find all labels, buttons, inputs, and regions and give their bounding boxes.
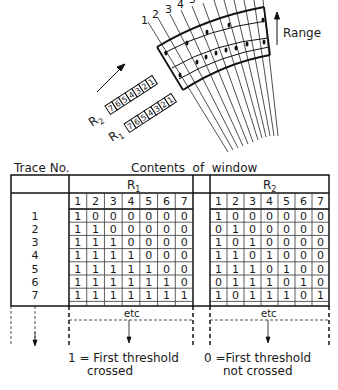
r1-cell: 0 [110, 210, 117, 223]
r2-cell: 0 [249, 210, 256, 223]
trace-number: 6 [32, 276, 39, 289]
legend-zero: 0 =First threshold not crossed [204, 352, 311, 378]
r1-cell: 1 [110, 263, 117, 276]
r1-cell: 1 [163, 289, 170, 302]
trace-label-4: 4 [177, 0, 184, 11]
r1-cell: 1 [74, 289, 81, 302]
r2-cell: 0 [317, 276, 324, 289]
r2-cell: 1 [249, 276, 256, 289]
etc-label-r1: etc [124, 308, 140, 319]
register-r2-label: R2 [86, 110, 106, 131]
legend-one-line2: crossed [68, 365, 179, 378]
r2-cell: 0 [317, 236, 324, 249]
contents-header: Contents of window [131, 161, 258, 175]
r2-cell: 0 [283, 276, 290, 289]
r2-cell: 0 [300, 210, 307, 223]
r1-cell: 0 [163, 249, 170, 262]
window-contents-table: Trace No. Contents of window R1 R2 11223… [0, 160, 338, 350]
r2-cell: 0 [283, 236, 290, 249]
r2-cell: 0 [215, 276, 222, 289]
r2-header: R2 [263, 178, 276, 194]
trace-number: 5 [32, 263, 39, 276]
r2-cell: 1 [232, 249, 239, 262]
r2-cell: 1 [249, 263, 256, 276]
r1-cell: 0 [181, 276, 188, 289]
trace-label-2: 2 [152, 8, 159, 21]
r1-col-num: 1 [74, 195, 81, 208]
r2-col-num: 2 [232, 195, 239, 208]
r1-cell: 0 [181, 263, 188, 276]
r1-cell: 1 [110, 289, 117, 302]
r1-cell: 1 [92, 236, 99, 249]
r1-cell: 1 [128, 249, 135, 262]
r2-cell: 0 [283, 223, 290, 236]
r2-cell: 1 [215, 289, 222, 302]
r2-cell: 1 [317, 289, 324, 302]
r1-cell: 1 [74, 210, 81, 223]
r2-cell: 1 [300, 276, 307, 289]
radar-window-diagram: 1 2 3 4 5 Range 7 6 5 4 3 2 1 [0, 0, 338, 160]
r2-cell: 0 [266, 223, 273, 236]
table-frame [11, 175, 329, 306]
r2-cell: 0 [266, 263, 273, 276]
r1-col-num: 5 [145, 195, 152, 208]
r2-cell: 1 [266, 249, 273, 262]
r1-cell: 1 [145, 276, 152, 289]
r1-cell: 0 [128, 223, 135, 236]
r1-cell: 1 [74, 236, 81, 249]
r1-cell: 0 [181, 249, 188, 262]
r1-cell: 1 [145, 289, 152, 302]
legend-one: 1 = First threshold crossed [68, 352, 179, 378]
r2-cell: 0 [317, 249, 324, 262]
r2-col-num: 4 [266, 195, 273, 208]
r1-cell: 0 [163, 263, 170, 276]
range-arrow-icon [275, 12, 280, 45]
r2-cell: 1 [215, 210, 222, 223]
r2-cell: 1 [232, 223, 239, 236]
r2-cell: 1 [266, 276, 273, 289]
r1-cell: 0 [181, 223, 188, 236]
r2-cell: 1 [215, 263, 222, 276]
trace-no-header: Trace No. [13, 161, 70, 175]
r1-cell: 0 [145, 249, 152, 262]
r1-cell: 1 [92, 223, 99, 236]
r1-cell: 0 [92, 210, 99, 223]
r2-cell: 0 [300, 223, 307, 236]
trace-number: 1 [32, 210, 39, 223]
trace-lines [148, 0, 278, 152]
etc-label-r2: etc [261, 308, 277, 319]
r2-cell: 1 [232, 276, 239, 289]
r2-cell: 1 [283, 289, 290, 302]
range-label: Range [283, 26, 321, 40]
r2-col-num: 3 [249, 195, 256, 208]
r1-cell: 0 [163, 210, 170, 223]
r1-col-num: 2 [92, 195, 99, 208]
r1-cell: 0 [145, 236, 152, 249]
trace-label-5: 5 [189, 0, 196, 6]
r1-cell: 0 [181, 210, 188, 223]
r1-cell: 0 [163, 223, 170, 236]
r1-cell: 0 [145, 223, 152, 236]
r1-cell: 1 [128, 289, 135, 302]
r2-cell: 0 [300, 236, 307, 249]
r1-cell: 1 [74, 223, 81, 236]
r2-cell: 0 [249, 223, 256, 236]
r1-cell: 1 [74, 249, 81, 262]
r1-cell: 1 [92, 249, 99, 262]
r2-cell: 1 [266, 289, 273, 302]
r2-col-num: 7 [317, 195, 324, 208]
r2-cell: 0 [283, 210, 290, 223]
r1-col-num: 3 [110, 195, 117, 208]
trace-label-1: 1 [141, 14, 148, 27]
legend-zero-line2: not crossed [204, 365, 311, 378]
r2-cell: 1 [215, 249, 222, 262]
r2-cell: 0 [283, 249, 290, 262]
r2-cell: 0 [300, 263, 307, 276]
r1-cell: 0 [145, 210, 152, 223]
r2-cell: 0 [215, 223, 222, 236]
r1-cell: 1 [110, 249, 117, 262]
trace-number: 2 [32, 223, 39, 236]
r1-col-num: 6 [163, 195, 170, 208]
r1-cell: 1 [92, 276, 99, 289]
r2-cell: 0 [232, 236, 239, 249]
